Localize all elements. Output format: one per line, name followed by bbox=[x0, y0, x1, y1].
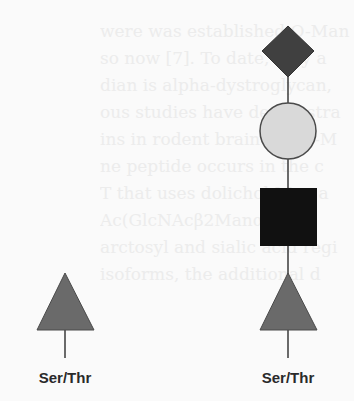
triangle-residue-icon bbox=[37, 273, 94, 330]
circle-residue-icon bbox=[260, 103, 316, 159]
diamond-residue-icon bbox=[262, 26, 314, 77]
glycan-right bbox=[260, 26, 317, 358]
ser-thr-label-left: Ser/Thr bbox=[39, 369, 92, 386]
glycan-left bbox=[37, 273, 94, 358]
triangle-residue-icon bbox=[260, 273, 317, 330]
ser-thr-label-right: Ser/Thr bbox=[262, 369, 315, 386]
square-residue-icon bbox=[260, 188, 317, 246]
